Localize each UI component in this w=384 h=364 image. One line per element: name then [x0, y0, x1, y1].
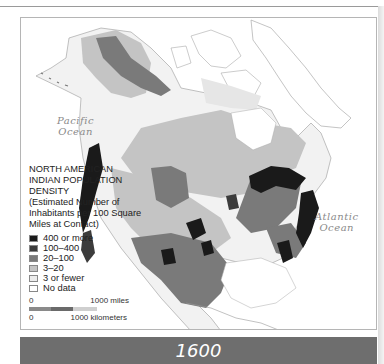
legend-label: 400 or more: [43, 233, 93, 243]
swatch-3-or-fewer: [29, 275, 38, 282]
legend-label: 20–100: [43, 253, 74, 263]
scale-miles-row: 0 1000 miles: [29, 296, 129, 306]
scale-km-row: 0 1000 kilometers: [29, 313, 129, 323]
scale-miles-start: 0: [29, 296, 33, 306]
legend-item-no-data: No data: [29, 283, 147, 293]
legend-subtitle: (Estimated Number of Inhabitants per 100…: [29, 197, 147, 230]
map-legend: NORTH AMERICAN INDIAN POPULATION DENSITY…: [29, 164, 147, 293]
atlantic-label-line1: Atlantic: [315, 211, 358, 222]
legend-item-100-400: 100–400: [29, 243, 147, 253]
map-frame: Pacific Ocean Atlantic Ocean NORTH AMERI…: [20, 17, 377, 330]
atlantic-ocean-label: Atlantic Ocean: [315, 211, 358, 233]
year-banner: 1600: [20, 337, 377, 364]
swatch-400-plus: [29, 235, 38, 242]
atlantic-label-line2: Ocean: [315, 222, 358, 233]
page-shadow: [378, 6, 384, 364]
pacific-label-line1: Pacific: [57, 115, 94, 126]
pacific-ocean-label: Pacific Ocean: [57, 115, 94, 137]
legend-label: No data: [43, 283, 76, 293]
swatch-3-20: [29, 265, 38, 272]
scale-bar: 0 1000 miles 0 1000 kilometers: [29, 296, 129, 323]
pacific-label-line2: Ocean: [57, 126, 94, 137]
legend-item-20-100: 20–100: [29, 253, 147, 263]
swatch-20-100: [29, 255, 38, 262]
legend-title: NORTH AMERICAN INDIAN POPULATION DENSITY: [29, 164, 147, 197]
top-rule: [0, 6, 380, 7]
swatch-no-data: [29, 285, 38, 292]
legend-item-400-plus: 400 or more: [29, 233, 147, 243]
legend-item-3-or-fewer: 3 or fewer: [29, 273, 147, 283]
legend-item-3-20: 3–20: [29, 263, 147, 273]
legend-label: 100–400: [43, 243, 79, 253]
scale-miles-end: 1000 miles: [90, 296, 129, 306]
scale-km-start: 0: [29, 313, 33, 323]
legend-label: 3–20: [43, 263, 64, 273]
legend-label: 3 or fewer: [43, 273, 84, 283]
scale-km-end: 1000 kilometers: [71, 313, 127, 323]
scale-bar-graphic: [29, 307, 97, 311]
swatch-100-400: [29, 245, 38, 252]
